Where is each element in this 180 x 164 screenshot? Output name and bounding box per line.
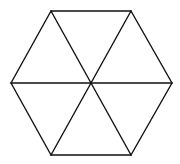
hexagon-svg [0, 0, 180, 164]
spoke-to-bottom-left [51, 83, 91, 155]
hexagon-edge-bottom-left-to-left [11, 83, 51, 155]
hexagon-edge-right-to-bottom-right [131, 83, 172, 155]
hexagon-diagram [0, 0, 180, 164]
hexagon-edge-top-right-to-right [131, 11, 172, 83]
hexagon-spokes [11, 11, 172, 155]
hexagon-edge-left-to-top-left [11, 11, 51, 83]
spoke-to-bottom-right [91, 83, 131, 155]
spoke-to-top-left [51, 11, 91, 83]
spoke-to-top-right [91, 11, 131, 83]
